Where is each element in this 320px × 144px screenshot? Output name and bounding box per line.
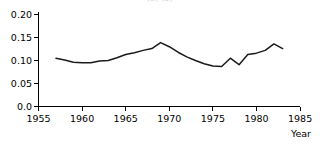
x-tick-label-5: 1980 xyxy=(244,113,268,124)
x-tick-label-2: 1965 xyxy=(114,113,138,124)
y-tick-label-0: 0.20 xyxy=(11,9,32,20)
line-chart-plot: 0.20 0.15 0.10 0.05 0.0 1955 1960 1965 1… xyxy=(0,0,320,144)
chart-figure: (a) (b) 0.20 0.15 0.10 0.05 0.0 xyxy=(0,0,320,144)
y-tick-marks xyxy=(34,15,39,107)
data-series-line xyxy=(56,43,283,67)
x-tick-label-4: 1975 xyxy=(201,113,225,124)
x-tick-label-3: 1970 xyxy=(157,113,181,124)
y-tick-label-3: 0.05 xyxy=(11,78,32,89)
y-tick-label-1: 0.15 xyxy=(11,32,32,43)
x-tick-label-6: 1985 xyxy=(288,113,312,124)
x-tick-marks xyxy=(39,107,301,112)
x-tick-label-0: 1955 xyxy=(26,113,50,124)
y-tick-label-2: 0.10 xyxy=(11,55,32,66)
y-tick-label-4: 0.0 xyxy=(17,101,32,112)
x-tick-label-1: 1960 xyxy=(70,113,94,124)
x-axis-title: Year xyxy=(290,128,311,139)
